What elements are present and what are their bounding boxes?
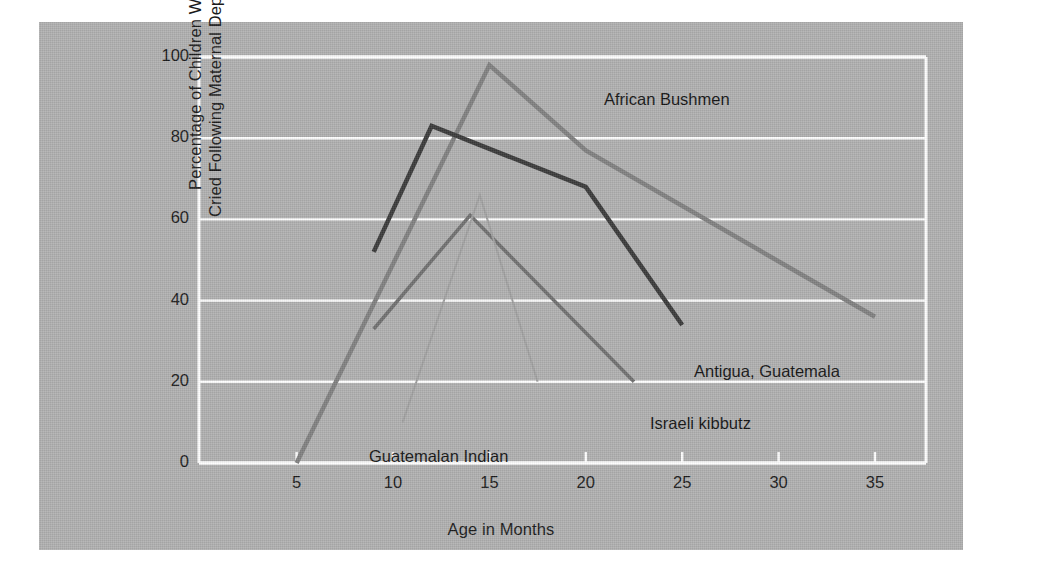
gridlines (199, 57, 926, 463)
y-axis-title-wrapper: Percentage of Children Who Cried Followi… (182, 0, 228, 287)
x-tick-label: 25 (657, 473, 707, 492)
chart-figure: 5101520253035 020406080100 African Bushm… (39, 22, 963, 550)
y-tick-label: 20 (141, 371, 189, 390)
series-label-3: Guatemalan Indian (369, 447, 508, 466)
x-tick-label: 30 (754, 473, 804, 492)
y-tick-label: 0 (141, 452, 189, 471)
y-tick-label: 40 (141, 290, 189, 309)
x-axis-title: Age in Months (39, 520, 963, 539)
axis-frame (199, 57, 926, 463)
series-line-1 (374, 126, 683, 325)
series-line-0 (297, 65, 875, 463)
series-lines (297, 65, 875, 463)
y-axis-title-line-1: Percentage of Children Who (186, 0, 204, 190)
series-line-3 (403, 195, 538, 422)
series-line-2 (374, 215, 634, 381)
x-tick-label: 20 (561, 473, 611, 492)
x-tick-label: 15 (464, 473, 514, 492)
y-axis-title-line-2: Cried Following Maternal Departure (206, 0, 224, 217)
series-label-2: Israeli kibbutz (650, 414, 751, 433)
x-tick-label: 5 (272, 473, 322, 492)
x-tick-label: 10 (368, 473, 418, 492)
series-label-0: African Bushmen (604, 90, 730, 109)
y-axis-title: Percentage of Children Who Cried Followi… (185, 0, 225, 287)
x-tick-label: 35 (850, 473, 900, 492)
series-label-1: Antigua, Guatemala (694, 362, 840, 381)
